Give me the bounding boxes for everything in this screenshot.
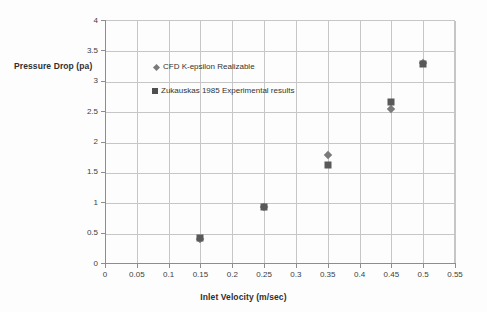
gridline-horizontal (105, 143, 454, 144)
x-tick-mark (360, 264, 361, 268)
x-tick-mark (391, 264, 392, 268)
x-axis-title: Inlet Velocity (m/sec) (0, 292, 487, 302)
x-tick-label: 0 (90, 270, 120, 279)
diamond-marker-icon (153, 63, 160, 70)
y-tick-label: 2.5 (72, 107, 98, 116)
gridline-horizontal (105, 203, 454, 204)
x-tick-label: 0.15 (185, 270, 215, 279)
legend-label-zukauskas: Zukauskas 1985 Experimental results (161, 86, 294, 96)
plot-area (105, 20, 455, 263)
x-tick-label: 0.55 (440, 270, 470, 279)
x-tick-label: 0.25 (249, 270, 279, 279)
x-tick-mark (423, 264, 424, 268)
x-tick-label: 0.1 (154, 270, 184, 279)
x-tick-mark (296, 264, 297, 268)
x-tick-mark (455, 264, 456, 268)
x-tick-label: 0.5 (408, 270, 438, 279)
x-tick-label: 0.3 (281, 270, 311, 279)
gridline-horizontal (105, 234, 454, 235)
legend-item-zukauskas: Zukauskas 1985 Experimental results (152, 86, 294, 96)
x-tick-mark (169, 264, 170, 268)
y-tick-label: 1 (72, 198, 98, 207)
data-point-square (388, 99, 395, 106)
scatter-chart: Pressure Drop (pa) Inlet Velocity (m/sec… (0, 0, 487, 312)
y-tick-mark (101, 202, 105, 203)
x-tick-mark (232, 264, 233, 268)
data-point-square (324, 162, 331, 169)
x-tick-label: 0.2 (217, 270, 247, 279)
x-tick-mark (264, 264, 265, 268)
x-tick-mark (328, 264, 329, 268)
y-tick-mark (101, 20, 105, 21)
x-axis-line (105, 263, 456, 264)
x-tick-label: 0.45 (376, 270, 406, 279)
y-tick-mark (101, 263, 105, 264)
data-point-square (261, 203, 268, 210)
gridline-horizontal (105, 173, 454, 174)
y-tick-label: 0.5 (72, 228, 98, 237)
y-tick-mark (101, 81, 105, 82)
y-tick-label: 4 (72, 16, 98, 25)
y-tick-mark (101, 50, 105, 51)
x-tick-mark (105, 264, 106, 268)
gridline-horizontal (105, 82, 454, 83)
y-axis-title: Pressure Drop (pa) (14, 61, 92, 71)
y-tick-label: 3 (72, 76, 98, 85)
x-tick-label: 0.35 (313, 270, 343, 279)
y-tick-label: 2 (72, 137, 98, 146)
y-tick-mark (101, 142, 105, 143)
y-tick-label: 0 (72, 259, 98, 268)
gridline-horizontal (105, 51, 454, 52)
y-tick-label: 1.5 (72, 167, 98, 176)
legend-label-cfd: CFD K-epsilon Realizable (163, 62, 255, 72)
y-tick-mark (101, 111, 105, 112)
y-tick-mark (101, 233, 105, 234)
x-tick-mark (137, 264, 138, 268)
x-tick-label: 0.4 (345, 270, 375, 279)
square-marker-icon (152, 88, 158, 94)
data-point-square (197, 235, 204, 242)
gridline-horizontal (105, 112, 454, 113)
y-axis-line (105, 20, 106, 264)
gridline-vertical (455, 21, 456, 263)
y-tick-label: 3.5 (72, 46, 98, 55)
legend-item-cfd: CFD K-epsilon Realizable (153, 62, 255, 72)
y-tick-mark (101, 172, 105, 173)
data-point-square (420, 61, 427, 68)
x-tick-label: 0.05 (122, 270, 152, 279)
x-tick-mark (200, 264, 201, 268)
